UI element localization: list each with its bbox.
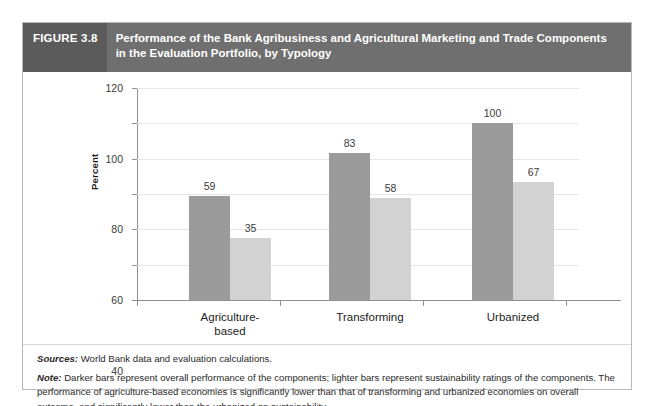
y-axis-tick-label: 100 (105, 153, 123, 165)
sources-text: World Bank data and evaluation calculati… (78, 353, 272, 364)
x-axis-line (137, 300, 621, 301)
bar-value-label: 35 (245, 222, 257, 234)
bar (370, 198, 411, 300)
y-axis-tick: 80 (132, 159, 137, 160)
x-axis-category-label: Urbanized (487, 310, 539, 324)
gridline (137, 88, 579, 89)
y-axis-tick: 100 (132, 123, 137, 124)
note-line: Note: Darker bars represent overall perf… (37, 371, 615, 406)
x-axis-tick (423, 301, 424, 306)
x-axis-category-label: Agriculture-based (201, 310, 260, 338)
bar-value-label: 58 (385, 182, 397, 194)
bar (189, 196, 230, 300)
x-axis-tick (280, 301, 281, 306)
bar (513, 182, 554, 300)
y-axis-tick: 40 (132, 229, 137, 230)
sources-line: Sources: World Bank data and evaluation … (37, 352, 615, 367)
y-axis-tick-label: 60 (111, 294, 123, 306)
x-axis-tick-label: Agriculture- (201, 311, 260, 323)
figure-header: FIGURE 3.8 Performance of the Bank Agrib… (23, 23, 631, 72)
y-axis-title: Percent (89, 154, 100, 190)
x-axis-tick (137, 301, 138, 306)
notes-section: Sources: World Bank data and evaluation … (23, 345, 631, 406)
x-axis-tick-label: based (214, 325, 245, 337)
sources-label: Sources: (37, 353, 78, 364)
y-axis-tick: 120 (132, 88, 137, 89)
x-axis-tick (566, 301, 567, 306)
figure-title: Performance of the Bank Agribusiness and… (107, 23, 631, 72)
y-axis-tick-label: 120 (105, 82, 123, 94)
y-axis-tick-label: 80 (111, 223, 123, 235)
note-text: Darker bars represent overall performanc… (37, 372, 615, 406)
x-axis-tick-label: Transforming (336, 311, 403, 323)
figure-number: FIGURE 3.8 (23, 23, 107, 72)
bar (230, 238, 271, 300)
bar-value-label: 59 (204, 180, 216, 192)
bar (329, 153, 370, 300)
x-axis-tick-label: Urbanized (487, 311, 539, 323)
x-axis-category-label: Transforming (336, 310, 403, 324)
note-label: Note: (37, 372, 62, 383)
chart-area: Percent 0204060801001205935Agriculture-b… (23, 72, 631, 344)
plot-region: 0204060801001205935Agriculture-based8358… (137, 88, 599, 301)
bar-value-label: 83 (344, 137, 356, 149)
bar-value-label: 100 (484, 107, 502, 119)
y-axis-tick: 60 (132, 194, 137, 195)
y-axis-tick: 20 (132, 265, 137, 266)
bar (472, 123, 513, 300)
bar-value-label: 67 (528, 166, 540, 178)
figure-container: FIGURE 3.8 Performance of the Bank Agrib… (22, 22, 632, 390)
